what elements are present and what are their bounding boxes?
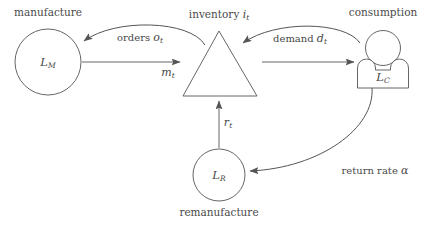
edge-returns (250, 88, 372, 171)
edge-label-manufacturing-flow: mt (161, 67, 174, 78)
edge-label-demand: demand dt (273, 33, 327, 44)
edge-label-demand-text: demand (273, 33, 314, 44)
edge-label-returns-text: return rate (342, 165, 398, 176)
edge-label-demand-symbol: dt (317, 32, 327, 45)
inventory-caption-text: inventory (189, 8, 240, 20)
node-caption-remanufacture: remanufacture (179, 207, 258, 218)
edge-label-orders: orders ot (117, 32, 163, 43)
supply-chain-diagram: manufacture inventory it consumption rem… (0, 0, 431, 230)
edge-label-r-symbol: rt (224, 116, 232, 129)
edge-label-orders-symbol: ot (153, 31, 163, 44)
node-caption-manufacture: manufacture (14, 7, 82, 18)
node-symbol-remanufacture: LR (212, 170, 225, 182)
inventory-caption-symbol: it (243, 8, 250, 21)
edge-label-remanufacturing-flow: rt (224, 117, 232, 128)
edge-label-m-symbol: mt (161, 66, 174, 79)
edge-label-returns: return rate α (342, 165, 409, 176)
edge-label-orders-text: orders (117, 32, 150, 43)
edge-label-returns-symbol: α (401, 164, 408, 177)
node-caption-consumption: consumption (349, 7, 417, 18)
diagram-canvas (0, 0, 431, 230)
node-symbol-consumption: LC (376, 72, 389, 84)
node-symbol-manufacture: LM (40, 57, 55, 69)
node-caption-inventory: inventory it (189, 9, 249, 20)
